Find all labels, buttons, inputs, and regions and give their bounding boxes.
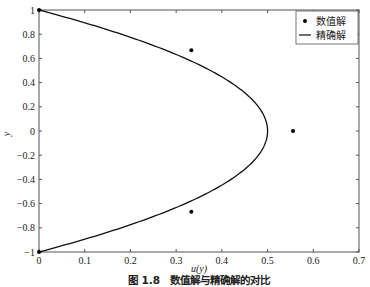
x-tick-label: 0.1	[78, 255, 91, 266]
x-tick-label: 0.3	[170, 255, 183, 266]
chart: 00.10.20.30.40.50.60.710.80.60.40.20−0.2…	[0, 0, 370, 287]
legend-marker-numeric	[303, 19, 307, 23]
y-tick-label: 0.2	[23, 101, 36, 112]
plot-area-frame	[39, 10, 359, 252]
y-tick-label: −0.6	[17, 198, 35, 209]
y-tick-label: 0.6	[23, 53, 36, 64]
y-axis-label: y	[1, 131, 12, 137]
x-tick-label: 0.6	[307, 255, 320, 266]
numeric-solution-point	[37, 250, 41, 254]
numeric-solution-point	[37, 8, 41, 12]
numeric-solution-point	[189, 210, 193, 214]
numeric-solution-point	[189, 48, 193, 52]
legend-label-exact: 精确解	[316, 29, 346, 41]
y-tick-label: 0.8	[23, 29, 36, 40]
numeric-solution-point	[291, 129, 295, 133]
figure-caption: 图 1.8 数值解与精确解的对比	[128, 274, 271, 286]
y-tick-label: −0.8	[17, 222, 35, 233]
y-tick-label: 0	[30, 126, 35, 137]
x-tick-label: 0.4	[216, 255, 229, 266]
x-tick-label: 0	[37, 255, 42, 266]
x-tick-label: 0.2	[124, 255, 137, 266]
y-tick-label: −0.4	[17, 174, 35, 185]
y-tick-label: 1	[30, 5, 35, 16]
x-tick-label: 0.5	[261, 255, 274, 266]
y-tick-label: 0.4	[23, 77, 36, 88]
y-tick-label: −0.2	[17, 150, 35, 161]
legend-label-numeric: 数值解	[316, 15, 346, 27]
x-tick-label: 0.7	[353, 255, 366, 266]
y-tick-label: −1	[24, 247, 35, 258]
exact-solution-line	[39, 10, 268, 252]
